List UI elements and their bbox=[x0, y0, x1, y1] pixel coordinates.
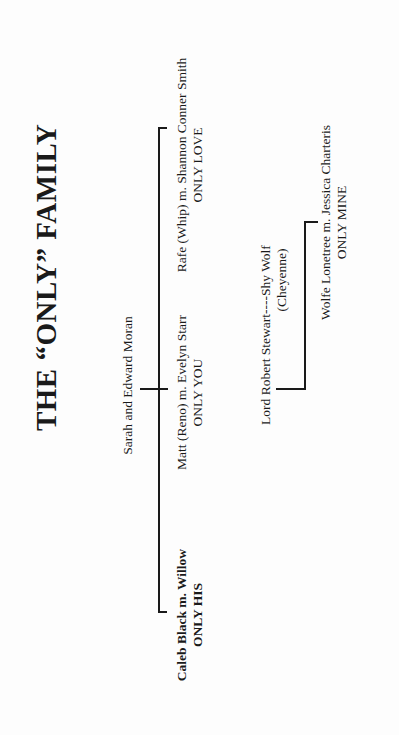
child-book: ONLY HIS bbox=[190, 530, 206, 700]
child-book: ONLY LOVE bbox=[190, 40, 206, 290]
siblings-bar-line bbox=[158, 127, 160, 613]
caleb-tick-line bbox=[158, 611, 167, 613]
second-parent-name: Lord Robert Stewart----Shy Wolf bbox=[258, 220, 274, 490]
child-node-wolfe: Wolfe Lonetree m. Jessica Charteris ONLY… bbox=[318, 115, 350, 330]
second-branch-tick-line bbox=[304, 221, 318, 223]
parents-name: Sarah and Edward Moran bbox=[120, 316, 135, 454]
child-name: Caleb Black m. Willow bbox=[174, 530, 190, 700]
child-node-caleb: Caleb Black m. Willow ONLY HIS bbox=[174, 530, 206, 700]
child-name: Wolfe Lonetree m. Jessica Charteris bbox=[318, 115, 334, 330]
child-node-matt: Matt (Reno) m. Evelyn Starr ONLY YOU bbox=[174, 295, 206, 490]
child-node-rafe: Rafe (Whip) m. Shannon Conner Smith ONLY… bbox=[174, 40, 206, 290]
rotated-family-tree-page: THE “ONLY” FAMILY Sarah and Edward Moran… bbox=[0, 0, 399, 735]
rafe-tick-line bbox=[158, 127, 167, 129]
child-name: Rafe (Whip) m. Shannon Conner Smith bbox=[174, 40, 190, 290]
parents-node: Sarah and Edward Moran bbox=[120, 309, 136, 462]
second-branch-bar-line bbox=[304, 221, 306, 390]
child-book: ONLY MINE bbox=[334, 115, 350, 330]
second-parent-node: Lord Robert Stewart----Shy Wolf (Cheyenn… bbox=[258, 220, 290, 490]
parents-connector-line bbox=[140, 388, 168, 390]
second-branch-drop-line bbox=[276, 388, 306, 390]
child-name: Matt (Reno) m. Evelyn Starr bbox=[174, 295, 190, 490]
second-parent-note: (Cheyenne) bbox=[274, 220, 290, 490]
page-title: THE “ONLY” FAMILY bbox=[30, 0, 63, 645]
child-book: ONLY YOU bbox=[190, 295, 206, 490]
